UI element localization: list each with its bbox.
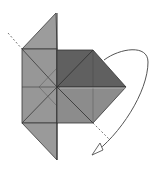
origami-diagram: [0, 0, 158, 170]
lower-right-square: [57, 87, 126, 123]
dark-upper-square: [57, 50, 126, 87]
left-strip: [22, 13, 57, 160]
